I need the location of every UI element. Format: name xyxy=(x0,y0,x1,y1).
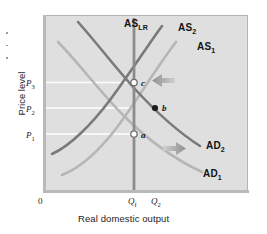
x-tick-q2: Q2 xyxy=(151,196,161,208)
point-b-marker xyxy=(152,105,158,111)
x-tick-qf: Qf xyxy=(128,196,137,208)
curve-label-ad1: AD1 xyxy=(203,168,222,181)
y-axis-line xyxy=(43,15,46,193)
point-label-a: a xyxy=(141,130,146,140)
x-axis-line xyxy=(43,190,249,193)
origin-label: 0 xyxy=(38,196,43,206)
point-c-marker xyxy=(131,79,137,85)
point-label-b: b xyxy=(162,103,167,113)
y-axis-title: Price level xyxy=(16,59,27,129)
point-label-c: c xyxy=(141,78,145,88)
point-a-marker xyxy=(131,131,137,137)
y-tick-p1: P1 xyxy=(26,130,35,142)
y-tick-p2: P2 xyxy=(26,104,35,116)
curve-label-ad2: AD2 xyxy=(206,140,225,153)
curve-label-as2: AS2 xyxy=(178,22,196,35)
y-tick-p3: P3 xyxy=(26,78,35,90)
curve-label-as1: AS1 xyxy=(197,41,215,54)
x-axis-title: Real domestic output xyxy=(78,214,169,224)
as-ad-figure: Price level P3 P2 P1 0 Qf Q2 Real domest… xyxy=(0,0,267,234)
as-shift-arrow xyxy=(152,74,175,87)
gridlines xyxy=(46,83,134,135)
curve-label-aslr: ASLR xyxy=(124,18,148,31)
